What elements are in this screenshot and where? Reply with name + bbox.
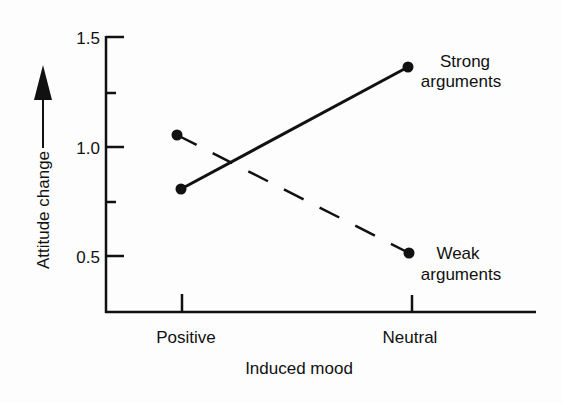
y-axis-arrow-icon	[34, 65, 52, 100]
chart: 1.5 1.0 0.5 Attitude change Positive Neu…	[0, 0, 562, 403]
data-point-weak-neutral	[404, 248, 415, 259]
y-tick-label: 0.5	[76, 248, 100, 267]
series-strong-line	[181, 67, 408, 189]
y-axis-label: Attitude change	[34, 151, 53, 269]
series-label-strong-line1: Strong	[440, 52, 490, 71]
y-tick-label: 1.5	[76, 29, 100, 48]
series-label-strong-line2: arguments	[421, 72, 501, 91]
series-weak-line	[177, 135, 409, 253]
data-point-weak-positive	[172, 130, 183, 141]
x-tick-label: Neutral	[383, 328, 438, 347]
data-point-strong-neutral	[403, 62, 414, 73]
x-axis-label: Induced mood	[245, 359, 353, 378]
x-tick-label: Positive	[156, 328, 216, 347]
series-label-weak-line1: Weak	[436, 244, 480, 263]
series-label-weak-line2: arguments	[421, 265, 501, 284]
y-tick-label: 1.0	[76, 139, 100, 158]
data-point-strong-positive	[176, 184, 187, 195]
